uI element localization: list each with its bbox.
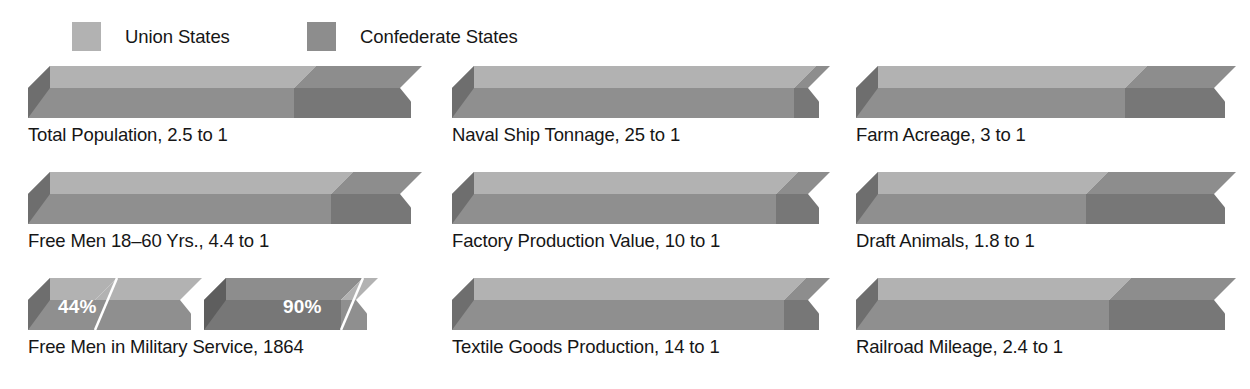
bar-caption-textile-goods-production: Textile Goods Production, 14 to 1 [452, 336, 720, 358]
bar-caption-total-population: Total Population, 2.5 to 1 [28, 124, 228, 146]
bar-row-1: Free Men 18–60 Yrs., 4.4 to 1 Factory Pr… [0, 172, 1250, 278]
bar-textile-goods-production [452, 278, 842, 332]
bar-naval-ship-tonnage [452, 66, 842, 120]
legend-label-confederate: Confederate States [360, 26, 518, 48]
bar-caption-factory-production-value: Factory Production Value, 10 to 1 [452, 230, 720, 252]
bar-shape-free-men-18-60 [28, 172, 434, 226]
bar-farm-acreage [856, 66, 1246, 120]
bar-row-0: Total Population, 2.5 to 1 Naval Ship To… [0, 66, 1250, 172]
bar-cell-factory-production-value: Factory Production Value, 10 to 1 [452, 172, 842, 226]
bar-draft-animals [856, 172, 1246, 226]
bar-free-men-18-60 [28, 172, 418, 226]
bar-row-2: 44%90% Free Men in Military Service, 186… [0, 278, 1250, 384]
bar-caption-free-men-military-service: Free Men in Military Service, 1864 [28, 336, 304, 358]
bar-railroad-mileage [856, 278, 1246, 332]
bar-shape-draft-animals [856, 172, 1248, 226]
bar-shape-textile-goods-production [452, 278, 842, 332]
bar-factory-production-value [452, 172, 842, 226]
bar-shape-factory-production-value [452, 172, 842, 226]
bar-shape-free-men-military-service-union [28, 278, 214, 332]
bar-caption-draft-animals: Draft Animals, 1.8 to 1 [856, 230, 1035, 252]
bar-caption-railroad-mileage: Railroad Mileage, 2.4 to 1 [856, 336, 1063, 358]
bar-cell-free-men-18-60: Free Men 18–60 Yrs., 4.4 to 1 [28, 172, 418, 226]
bar-cell-railroad-mileage: Railroad Mileage, 2.4 to 1 [856, 278, 1246, 332]
legend-label-union: Union States [125, 26, 230, 48]
legend-item-confederate: Confederate States [307, 22, 518, 51]
bar-free-men-military-service: 44%90% [28, 278, 418, 332]
bar-cell-farm-acreage: Farm Acreage, 3 to 1 [856, 66, 1246, 120]
bar-shape-railroad-mileage [856, 278, 1248, 332]
bar-shape-farm-acreage [856, 66, 1248, 120]
bar-grid: Total Population, 2.5 to 1 Naval Ship To… [0, 66, 1250, 384]
bar-total-population [28, 66, 418, 120]
bar-caption-farm-acreage: Farm Acreage, 3 to 1 [856, 124, 1026, 146]
bar-shape-naval-ship-tonnage [452, 66, 842, 120]
legend-swatch-confederate-icon [307, 22, 336, 51]
bar-cell-draft-animals: Draft Animals, 1.8 to 1 [856, 172, 1246, 226]
bar-caption-free-men-18-60: Free Men 18–60 Yrs., 4.4 to 1 [28, 230, 269, 252]
bar-cell-textile-goods-production: Textile Goods Production, 14 to 1 [452, 278, 842, 332]
legend-item-union: Union States [72, 22, 230, 51]
bar-cell-free-men-military-service: 44%90% Free Men in Military Service, 186… [28, 278, 418, 332]
bar-cell-total-population: Total Population, 2.5 to 1 [28, 66, 418, 120]
bar-cell-naval-ship-tonnage: Naval Ship Tonnage, 25 to 1 [452, 66, 842, 120]
legend-swatch-union-icon [72, 22, 101, 51]
bar-shape-total-population [28, 66, 434, 120]
bar-caption-naval-ship-tonnage: Naval Ship Tonnage, 25 to 1 [452, 124, 680, 146]
bar-shape-free-men-military-service-confederate [204, 278, 390, 332]
chart-legend: Union States Confederate States [0, 22, 1250, 62]
